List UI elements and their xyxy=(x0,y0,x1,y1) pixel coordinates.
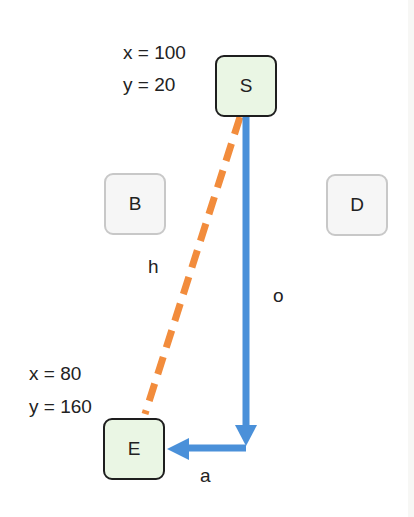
node-s: S xyxy=(215,55,277,117)
hypotenuse-edge xyxy=(145,117,240,414)
diagram-edges xyxy=(0,0,414,517)
opposite-label: o xyxy=(273,286,284,305)
node-d-label: D xyxy=(350,194,364,216)
node-b-label: B xyxy=(129,193,142,215)
adjacent-label: a xyxy=(200,466,211,485)
hypotenuse-label: h xyxy=(148,257,159,276)
start-coord-x: x = 100 xyxy=(123,43,186,62)
opposite-arrowhead xyxy=(235,425,257,446)
start-coord-y: y = 20 xyxy=(123,75,175,94)
node-s-label: S xyxy=(240,75,253,97)
node-e: E xyxy=(103,418,165,480)
end-coord-y: y = 160 xyxy=(29,397,92,416)
node-d: D xyxy=(326,174,388,236)
node-e-label: E xyxy=(128,438,141,460)
adjacent-arrowhead xyxy=(167,438,189,460)
node-b: B xyxy=(104,173,166,235)
end-coord-x: x = 80 xyxy=(29,364,81,383)
